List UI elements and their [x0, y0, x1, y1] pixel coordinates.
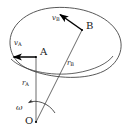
diagram-svg [0, 0, 126, 138]
point-b-marker [81, 29, 83, 31]
label-velocity-b-subscript: B [56, 16, 60, 22]
point-o-marker [35, 121, 37, 123]
label-angular-velocity: ω [16, 104, 23, 112]
label-radius-b-subscript: B [70, 61, 74, 67]
label-point-b: B [86, 21, 93, 31]
position-vector-rb-line [36, 30, 82, 122]
label-point-o: O [25, 116, 33, 126]
velocity-vector-b-arrow [60, 15, 82, 31]
label-velocity-b: vB [52, 15, 60, 22]
point-a-marker [35, 56, 37, 58]
label-velocity-a-subscript: A [18, 41, 22, 47]
label-point-a: A [40, 47, 47, 57]
figure-container: A B O vA vB rA rB ω [0, 0, 126, 138]
label-radius-b: rB [67, 60, 74, 67]
body-far-edge-curve [11, 56, 113, 74]
label-radius-a: rA [22, 80, 29, 87]
label-radius-a-subscript: A [25, 81, 29, 87]
angular-velocity-arc [29, 101, 55, 113]
label-velocity-a: vA [14, 40, 22, 47]
